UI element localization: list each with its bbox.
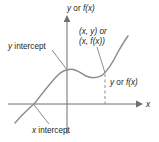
y-value-label-conjunction: or xyxy=(114,78,126,87)
x-intercept-leader-line xyxy=(34,105,49,124)
point-label-line1-text: (x, y) or xyxy=(79,27,107,36)
y-intercept-label: y intercept xyxy=(8,42,46,51)
y-axis-label: y or f(x) xyxy=(67,4,95,13)
y-axis-arrowhead xyxy=(64,15,71,22)
x-axis-arrowhead xyxy=(136,101,143,108)
point-label-leader-line xyxy=(97,47,105,73)
point-label-line1: (x, y) or xyxy=(79,27,107,36)
y-value-label: y or f(x) xyxy=(110,78,138,87)
y-axis-label-conjunction: or xyxy=(71,4,83,13)
y-intercept-leader-line xyxy=(52,50,68,71)
y-intercept-label-rest: intercept xyxy=(12,42,46,51)
x-intercept-label: x intercept xyxy=(32,126,70,135)
x-axis-label: x xyxy=(146,100,150,109)
graph-canvas xyxy=(0,0,159,142)
point-label-line2: (x, f(x)) xyxy=(79,37,105,46)
function-graph-figure: y or f(x) x y intercept (x, y) or (x, f(… xyxy=(0,0,159,142)
x-intercept-label-rest: intercept xyxy=(36,126,70,135)
y-axis-label-function: f(x) xyxy=(83,4,95,13)
point-label-line2-text: (x, f(x)) xyxy=(79,37,105,46)
y-value-label-function: f(x) xyxy=(126,78,138,87)
